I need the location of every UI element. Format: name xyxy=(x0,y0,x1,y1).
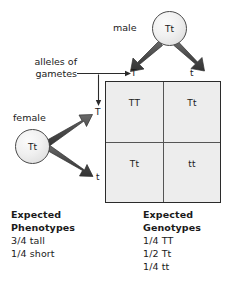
expected-phenotypes-block: Expected Phenotypes 3/4 tall 1/4 short xyxy=(11,208,75,260)
gametes-note-line2: gametes xyxy=(20,68,77,80)
phenotypes-heading-line2: Phenotypes xyxy=(11,221,75,234)
punnett-cell-tt: tt xyxy=(163,142,220,202)
genotype-ratio-tt: 1/4 tt xyxy=(143,260,201,273)
genotype-ratio-Tt: 1/2 Tt xyxy=(143,247,201,260)
gametes-horizontal-arrow xyxy=(77,71,131,76)
punnett-cell-Tt-top: Tt xyxy=(163,82,220,142)
female-to-t-arrow xyxy=(47,145,94,177)
genotypes-heading-line1: Expected xyxy=(143,208,201,221)
punnett-cell-tt-label: tt xyxy=(164,159,220,169)
male-to-T-arrow xyxy=(131,42,163,72)
male-label: male xyxy=(113,22,137,33)
genotypes-heading-line2: Genotypes xyxy=(143,221,201,234)
gametes-note: alleles of gametes xyxy=(20,56,77,79)
genotype-ratio-TT: 1/4 TT xyxy=(143,234,201,247)
punnett-cell-TT-label: TT xyxy=(106,98,163,108)
phenotype-ratio-short: 1/4 short xyxy=(11,247,75,260)
expected-genotypes-block: Expected Genotypes 1/4 TT 1/2 Tt 1/4 tt xyxy=(143,208,201,273)
male-genotype-label: Tt xyxy=(165,24,174,34)
punnett-cell-Tt-top-label: Tt xyxy=(164,98,220,108)
female-to-T-arrow xyxy=(46,115,93,148)
female-parent-circle: Tt xyxy=(15,129,50,164)
phenotypes-heading-line1: Expected xyxy=(11,208,75,221)
punnett-cell-Tt-bottom: Tt xyxy=(106,142,163,202)
row-header-t: t xyxy=(96,172,100,182)
male-to-t-arrow xyxy=(174,42,205,72)
column-header-T: T xyxy=(131,68,137,78)
punnett-grid: TT Tt Tt tt xyxy=(105,81,221,203)
gametes-note-line1: alleles of xyxy=(20,56,77,68)
column-header-t: t xyxy=(190,68,194,78)
phenotype-ratio-tall: 3/4 tall xyxy=(11,234,75,247)
male-parent-circle: Tt xyxy=(152,11,187,46)
female-genotype-label: Tt xyxy=(28,142,37,152)
punnett-square-diagram: Tt male Tt female alleles of gametes T t… xyxy=(0,0,236,283)
punnett-cell-TT: TT xyxy=(106,82,163,142)
female-label: female xyxy=(13,112,46,123)
gametes-vertical-arrow xyxy=(96,75,101,107)
punnett-cell-Tt-bottom-label: Tt xyxy=(106,159,163,169)
row-header-T: T xyxy=(95,107,101,117)
